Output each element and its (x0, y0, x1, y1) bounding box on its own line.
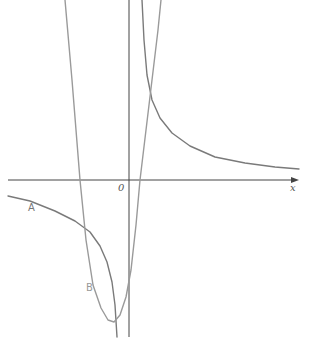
origin-label: 0 (118, 183, 124, 193)
curve-a-right-branch (142, 0, 299, 169)
x-axis-label: x (290, 183, 296, 193)
curve-a-left-branch (8, 196, 117, 337)
function-plot (0, 0, 309, 348)
curve-b-label: B (86, 283, 93, 293)
curve-b-parabola (65, 0, 161, 322)
curve-a-label: A (28, 203, 35, 213)
